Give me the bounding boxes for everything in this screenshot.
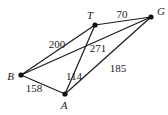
weighted-graph: 70200271114185158TGBA [0, 0, 168, 115]
node-label-a: A [60, 99, 68, 111]
node-t [92, 22, 97, 27]
edge-a-g [65, 17, 151, 94]
edge-weight-label: 158 [26, 82, 43, 94]
node-label-b: B [7, 70, 14, 82]
node-b [18, 72, 23, 77]
edge-weight-label: 200 [49, 38, 66, 50]
edge-weight-label: 114 [66, 70, 83, 82]
edge-weight-label: 70 [117, 8, 129, 20]
edge-weight-label: 185 [110, 62, 127, 74]
node-a [62, 91, 67, 96]
node-label-g: G [157, 5, 165, 17]
node-g [148, 14, 153, 19]
edge-weight-label: 271 [90, 42, 107, 54]
node-label-t: T [87, 9, 94, 21]
